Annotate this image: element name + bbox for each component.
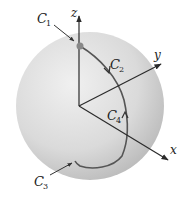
svg-text:1: 1: [46, 19, 51, 28]
svg-text:4: 4: [116, 116, 121, 125]
y-axis-label: y: [153, 48, 161, 62]
sphere: [16, 32, 164, 180]
svg-text:3: 3: [43, 182, 48, 191]
c3-label: C 3: [34, 174, 48, 191]
sphere-diagram: z y x C 1 C 2 C 4 C 3: [0, 0, 185, 200]
x-axis-label: x: [170, 143, 177, 157]
z-axis-label: z: [70, 6, 78, 20]
c1-point: [77, 43, 84, 50]
svg-text:2: 2: [119, 65, 124, 74]
c1-label: C 1: [37, 11, 51, 28]
